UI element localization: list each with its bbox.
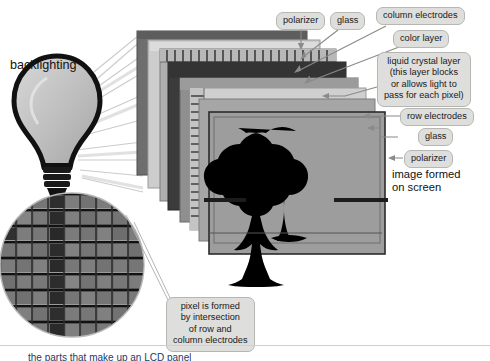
callout-row-electrodes: row electrodes xyxy=(400,108,474,126)
diagram-canvas: backlighting polarizer glass column elec… xyxy=(0,0,490,361)
callout-glass-bottom: glass xyxy=(418,128,453,146)
callout-color-layer: color layer xyxy=(393,30,449,48)
callout-column-electrodes: column electrodes xyxy=(376,7,465,25)
image-formed-label: image formed on screen xyxy=(392,168,460,195)
callout-polarizer-top: polarizer xyxy=(276,12,325,30)
callout-liquid-crystal-layer: liquid crystal layer (this layer blocks … xyxy=(377,52,471,107)
footer-divider xyxy=(0,345,490,346)
pixel-magnifier xyxy=(0,190,150,340)
callout-polarizer-bottom: polarizer xyxy=(404,150,453,168)
backlighting-label: backlighting xyxy=(10,58,77,72)
bottom-caption: the parts that make up an LCD panel xyxy=(28,352,191,361)
callout-pixel-note: pixel is formed by intersection of row a… xyxy=(166,297,255,352)
callout-glass-top: glass xyxy=(330,12,365,30)
